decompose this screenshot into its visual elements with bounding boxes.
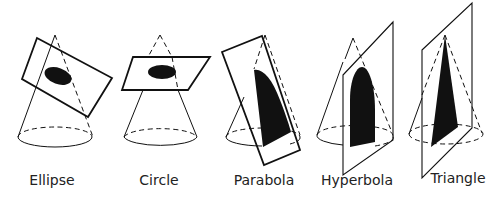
cone	[18, 35, 93, 147]
hyperbola-figure	[317, 22, 393, 175]
conic-sections-diagram	[0, 0, 501, 199]
circle-section	[148, 65, 176, 79]
label-hyperbola: Hyperbola	[321, 172, 393, 188]
hyperbola-section	[350, 67, 375, 147]
ellipse-section	[42, 64, 74, 89]
triangle-figure	[409, 3, 483, 178]
label-ellipse: Ellipse	[29, 172, 74, 188]
ellipse-figure	[18, 35, 112, 147]
label-triangle: Triangle	[431, 170, 486, 186]
label-circle: Circle	[139, 172, 178, 188]
triangle-section	[431, 35, 458, 147]
parabola-figure	[222, 35, 300, 165]
circle-figure	[122, 35, 210, 145]
label-parabola: Parabola	[234, 172, 295, 188]
